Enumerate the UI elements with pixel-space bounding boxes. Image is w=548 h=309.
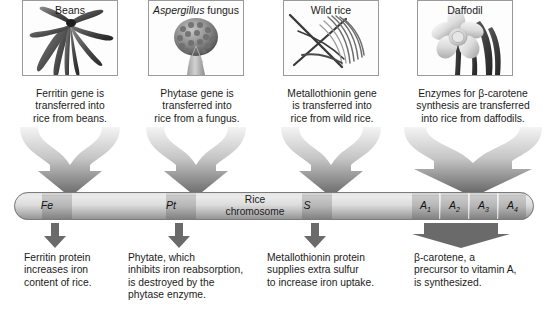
source-image-label-aspergillus: Aspergillus fungus: [149, 4, 243, 16]
gene-transfer-diagram: Beans Ferritin gene is transferred into …: [0, 0, 548, 309]
transfer-caption-beans-line3: rice from beans.: [0, 113, 140, 125]
transfer-caption-daffodil-line1: Enzymes for β-carotene: [398, 88, 548, 100]
result-caption-beans-line3: content of rice.: [24, 277, 144, 289]
transfer-caption-aspergillus-line2: transferred into: [126, 100, 268, 112]
result-arrow-aspergillus: [167, 223, 191, 253]
transfer-caption-beans: Ferritin gene is transferred into rice f…: [0, 88, 140, 125]
source-panel-beans: Beans: [22, 0, 118, 76]
result-arrow-beans: [43, 223, 67, 253]
result-caption-beans: Ferritin protein increases iron content …: [24, 252, 144, 289]
rice-chromosome-bar: [14, 192, 534, 220]
transfer-caption-aspergillus-line1: Phytase gene is: [126, 88, 268, 100]
source-image-box-daffodil: Daffodil: [417, 0, 513, 76]
source-image-label-daffodil: Daffodil: [418, 4, 512, 16]
result-caption-beans-line1: Ferritin protein: [24, 252, 144, 264]
transfer-caption-wild-rice: Metallothionin gene is transferred into …: [258, 88, 406, 125]
result-caption-beans-line2: increases iron: [24, 264, 144, 276]
transfer-caption-aspergillus-line3: rice from a fungus.: [126, 113, 268, 125]
result-caption-aspergillus-line4: phytase enzyme.: [128, 289, 260, 301]
source-image-label-aspergillus-rest: fungus: [204, 4, 238, 16]
transfer-caption-wild-rice-line1: Metallothionin gene: [258, 88, 406, 100]
result-caption-wild-rice: Metallothionin protein supplies extra su…: [267, 252, 407, 289]
source-image-label-aspergillus-genus: Aspergillus: [153, 4, 204, 16]
transfer-caption-wild-rice-line2: is transferred into: [258, 100, 406, 112]
source-image-box-beans: Beans: [22, 0, 118, 76]
source-image-label-beans: Beans: [23, 4, 117, 16]
transfer-caption-wild-rice-line3: rice from wild rice.: [258, 113, 406, 125]
result-arrow-wild-rice: [303, 223, 327, 253]
transfer-caption-beans-line2: transferred into: [0, 100, 140, 112]
source-image-label-wild-rice: Wild rice: [284, 4, 378, 16]
transfer-caption-aspergillus: Phytase gene is transferred into rice fr…: [126, 88, 268, 125]
transfer-caption-daffodil: Enzymes for β-carotene synthesis are tra…: [398, 88, 548, 125]
result-caption-daffodil-line1: β-carotene, a: [414, 252, 548, 264]
result-caption-wild-rice-line1: Metallothionin protein: [267, 252, 407, 264]
source-image-box-aspergillus: Aspergillus fungus: [148, 0, 244, 76]
transfer-caption-beans-line1: Ferritin gene is: [0, 88, 140, 100]
result-caption-aspergillus-line2: inhibits iron reabsorption,: [128, 264, 260, 276]
transfer-caption-daffodil-line3: into rice from daffodils.: [398, 113, 548, 125]
source-panel-wild-rice: Wild rice: [283, 0, 379, 76]
result-arrow-daffodil: [410, 223, 512, 253]
result-caption-wild-rice-line2: supplies extra sulfur: [267, 264, 407, 276]
source-panel-aspergillus: Aspergillus fungus: [148, 0, 244, 76]
transfer-caption-daffodil-line2: synthesis are transferred: [398, 100, 548, 112]
result-caption-wild-rice-line3: to increase iron uptake.: [267, 277, 407, 289]
result-caption-daffodil-line3: is synthesized.: [414, 277, 548, 289]
result-caption-aspergillus: Phytate, which inhibits iron reabsorptio…: [128, 252, 260, 302]
result-caption-aspergillus-line3: is destroyed by the: [128, 277, 260, 289]
result-caption-daffodil: β-carotene, a precursor to vitamin A, is…: [414, 252, 548, 289]
source-panel-daffodil: Daffodil: [417, 0, 513, 76]
result-caption-daffodil-line2: precursor to vitamin A,: [414, 264, 548, 276]
result-caption-aspergillus-line1: Phytate, which: [128, 252, 260, 264]
source-image-box-wild-rice: Wild rice: [283, 0, 379, 76]
